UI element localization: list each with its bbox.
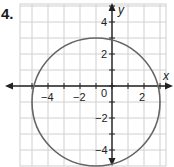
x-tick-label: 2 xyxy=(139,91,145,103)
y-tick-label: 4 xyxy=(101,16,107,28)
x-axis-label: x xyxy=(162,69,170,83)
x-tick-label: −2 xyxy=(73,91,86,103)
coordinate-plane: x y −4 −2 0 2 4 2 −2 −4 xyxy=(0,0,174,167)
x-axis-right-arrow-icon xyxy=(165,83,173,90)
x-axis-left-arrow-icon xyxy=(5,83,13,90)
y-tick-label: −2 xyxy=(95,112,108,124)
y-tick-label: −4 xyxy=(95,144,108,156)
y-axis-label: y xyxy=(117,3,125,17)
y-tick-label: 2 xyxy=(101,48,107,60)
x-tick-label: 0 xyxy=(101,87,107,99)
x-tick-label: −4 xyxy=(41,91,54,103)
